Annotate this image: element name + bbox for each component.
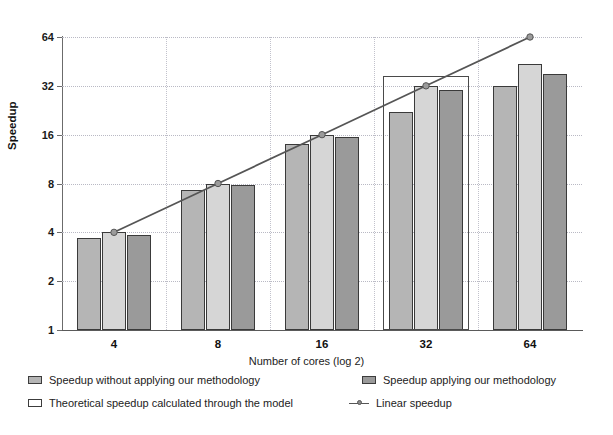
series1-swatch bbox=[28, 376, 42, 384]
legend-item-theoretical: Theoretical speedup calculated through t… bbox=[28, 397, 293, 409]
y-tick-label: 1 bbox=[48, 324, 54, 336]
plot-area: 1248163264 bbox=[62, 37, 582, 330]
bar-group-64 bbox=[493, 37, 567, 330]
x-tick-label: 64 bbox=[524, 338, 537, 350]
legend-row-1: Speedup without applying our methodology… bbox=[0, 374, 613, 396]
bar-group-8 bbox=[181, 37, 255, 330]
bar bbox=[518, 64, 542, 330]
y-tick-label: 32 bbox=[42, 80, 54, 92]
bar bbox=[181, 190, 205, 330]
y-tick-mark bbox=[57, 37, 62, 38]
legend-item-series3: Speedup applying our methodology bbox=[362, 374, 556, 386]
category-separator bbox=[374, 37, 375, 330]
category-separator bbox=[478, 37, 479, 330]
bar bbox=[543, 74, 567, 330]
y-tick-mark bbox=[57, 184, 62, 185]
legend-label-theoretical: Theoretical speedup calculated through t… bbox=[49, 397, 293, 409]
bar bbox=[310, 135, 334, 330]
y-tick-label: 64 bbox=[42, 31, 54, 43]
category-separator bbox=[166, 37, 167, 330]
bar bbox=[102, 232, 126, 330]
y-tick-mark bbox=[57, 232, 62, 233]
bar bbox=[493, 86, 517, 330]
bar-group-16 bbox=[285, 37, 359, 330]
x-tick-label: 8 bbox=[215, 338, 221, 350]
series3-swatch bbox=[362, 376, 376, 384]
speedup-bar-chart: 1248163264 Speedup Number of cores (log … bbox=[0, 0, 613, 435]
x-axis-title: Number of cores (log 2) bbox=[0, 355, 613, 367]
bar bbox=[206, 184, 230, 331]
x-tick-label: 32 bbox=[420, 338, 433, 350]
legend-row-2: Theoretical speedup calculated through t… bbox=[0, 397, 613, 419]
bar bbox=[77, 238, 101, 330]
legend-label-series1: Speedup without applying our methodology bbox=[49, 374, 260, 386]
y-tick-label: 16 bbox=[42, 129, 54, 141]
y-tick-label: 4 bbox=[48, 226, 54, 238]
y-tick-label: 2 bbox=[48, 275, 54, 287]
legend-item-linear: Linear speedup bbox=[349, 397, 452, 409]
legend-label-linear: Linear speedup bbox=[376, 397, 452, 409]
y-tick-mark bbox=[57, 281, 62, 282]
bar bbox=[335, 137, 359, 330]
legend-label-series3: Speedup applying our methodology bbox=[383, 374, 556, 386]
x-axis-line bbox=[62, 330, 583, 331]
x-tick-label: 4 bbox=[111, 338, 117, 350]
bar-group-4 bbox=[77, 37, 151, 330]
theoretical-swatch bbox=[28, 399, 42, 407]
y-tick-label: 8 bbox=[48, 178, 54, 190]
bar bbox=[231, 185, 255, 330]
category-separator bbox=[270, 37, 271, 330]
bar bbox=[285, 144, 309, 330]
x-tick-label: 16 bbox=[316, 338, 329, 350]
y-tick-mark bbox=[57, 330, 62, 331]
highlight-box bbox=[383, 76, 469, 330]
y-tick-mark bbox=[57, 135, 62, 136]
line-marker-icon bbox=[349, 399, 369, 408]
bar bbox=[127, 235, 151, 330]
y-axis-title: Speedup bbox=[6, 101, 18, 150]
y-tick-mark bbox=[57, 86, 62, 87]
legend-item-series1: Speedup without applying our methodology bbox=[28, 374, 260, 386]
